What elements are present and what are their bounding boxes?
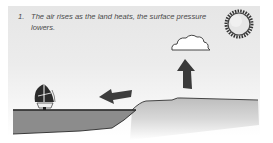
sun-icon: [226, 11, 252, 37]
scene: [0, 0, 273, 143]
rising-air-arrow-icon: [177, 59, 195, 89]
wind-arrow-icon: [99, 89, 132, 104]
sailboat-icon: [35, 84, 55, 110]
cloud-icon: [172, 35, 210, 50]
land: [130, 98, 259, 140]
water: [13, 110, 136, 134]
